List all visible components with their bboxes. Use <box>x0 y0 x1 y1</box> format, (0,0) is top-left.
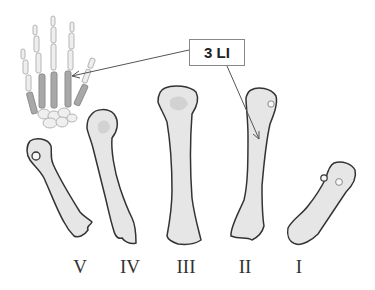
metacarpal-ii-bone <box>231 88 277 240</box>
numeral-v-label: V <box>73 256 87 278</box>
metacarpal-iv-bone <box>87 110 136 244</box>
diagram-canvas <box>0 0 375 290</box>
numeral-ii-label: II <box>239 256 252 278</box>
numeral-iv-label: IV <box>120 256 140 278</box>
metacarpal-i-bone <box>288 162 356 244</box>
metacarpal-v-bone <box>27 139 92 237</box>
hand-skeleton-icon <box>21 16 96 128</box>
metacarpal-iii-bone <box>158 86 201 244</box>
numeral-iii-label: III <box>177 256 196 278</box>
numeral-i-label: I <box>296 256 302 278</box>
callout-label: 3 LI <box>189 39 245 66</box>
